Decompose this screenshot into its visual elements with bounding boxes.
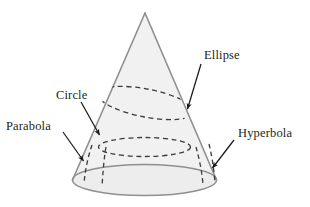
conic-sections-figure: Ellipse Circle Parabola Hyperbola (0, 0, 310, 207)
cone-shape (73, 13, 217, 196)
hyperbola-leader-arrow (213, 140, 235, 168)
circle-label: Circle (56, 88, 88, 102)
parabola-label: Parabola (6, 119, 51, 133)
ellipse-leader-arrow (188, 64, 202, 109)
ellipse-label: Ellipse (204, 48, 240, 62)
hyperbola-label: Hyperbola (238, 126, 292, 140)
circle-leader-arrow (81, 102, 100, 135)
conic-diagram-canvas: Ellipse Circle Parabola Hyperbola (0, 0, 310, 207)
parabola-leader-arrow (63, 132, 84, 161)
